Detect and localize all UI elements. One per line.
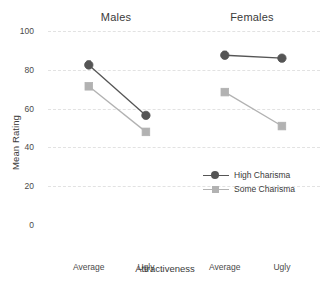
data-point-square[interactable] (221, 88, 229, 96)
legend-marker-circle-icon (203, 168, 229, 182)
y-axis-tick-label: 20 (4, 181, 34, 191)
legend-item-some-charisma[interactable]: Some Charisma (203, 182, 321, 196)
data-point-square[interactable] (278, 122, 286, 130)
legend-label-some-charisma: Some Charisma (229, 184, 295, 194)
legend-marker-square-icon (203, 182, 229, 196)
legend-item-high-charisma[interactable]: High Charisma (203, 168, 321, 182)
series-line (225, 55, 282, 58)
y-axis-tick-label: 0 (4, 220, 34, 230)
y-axis-tick-label: 100 (4, 26, 34, 36)
data-point-circle[interactable] (85, 61, 93, 69)
y-axis-tick-label: 80 (4, 65, 34, 75)
line-chart: Mean Rating Males Females 020406080100 A… (0, 0, 330, 285)
y-axis-tick-label: 60 (4, 104, 34, 114)
legend-label-high-charisma: High Charisma (229, 170, 290, 180)
series-line (89, 86, 146, 132)
legend: High Charisma Some Charisma (203, 168, 321, 196)
y-axis-tick-label: 40 (4, 142, 34, 152)
data-point-circle[interactable] (278, 54, 286, 62)
data-point-square[interactable] (85, 82, 93, 90)
series-line (89, 65, 146, 115)
series-line (225, 92, 282, 126)
panel-title-females: Females (184, 11, 320, 23)
data-point-circle[interactable] (142, 111, 150, 119)
data-point-square[interactable] (142, 128, 150, 136)
x-axis-title: Attractiveness (0, 263, 330, 274)
data-point-circle[interactable] (221, 51, 229, 59)
panel-title-males: Males (48, 11, 184, 23)
